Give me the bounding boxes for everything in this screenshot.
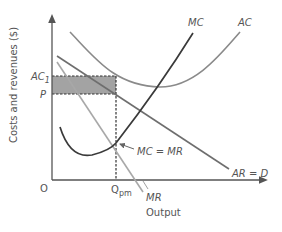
x-axis-label: Output [146,207,181,218]
ar-d-label: AR = D [231,168,269,179]
mr-pointer [143,181,148,189]
origin-label: O [40,183,48,194]
monopoly-diagram: Costs and revenues ($) O Output AC1 P Qp… [0,0,282,232]
mc-label: MC [188,17,204,28]
shaded-area [52,76,116,94]
qpm-label: Qpm [111,184,132,198]
p-label: P [40,89,47,100]
ac-label: AC [237,17,252,28]
ac1-label: AC1 [30,71,50,85]
mr-label: MR [146,192,162,203]
mc-curve [60,33,193,155]
y-axis-label: Costs and revenues ($) [8,27,19,143]
mc-eq-mr-pointer [120,144,134,149]
mc-eq-mr-label: MC = MR [137,146,183,157]
